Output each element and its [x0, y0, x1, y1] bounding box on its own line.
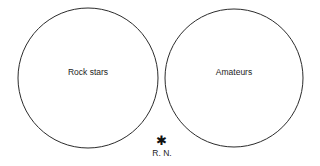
asterisk-icon: ✱ [156, 133, 167, 148]
venn-diagram-canvas: Rock stars Amateurs ✱ R. N. [0, 0, 320, 166]
footnote-credit: R. N. [152, 148, 171, 158]
set-label-amateurs: Amateurs [216, 67, 252, 77]
circle-amateurs [165, 9, 303, 147]
set-label-rock-stars: Rock stars [68, 67, 108, 77]
circle-rock-stars [18, 8, 158, 148]
venn-diagram-svg: Rock stars Amateurs ✱ R. N. [0, 0, 320, 166]
